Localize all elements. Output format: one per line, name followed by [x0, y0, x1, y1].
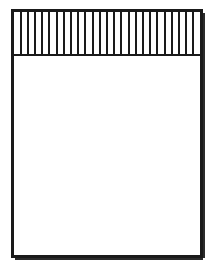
hatch-band: [14, 12, 201, 55]
figure-canvas: Vertical rectangle outline with a hatche…: [0, 0, 216, 267]
line-drawing-svg: [0, 0, 216, 267]
